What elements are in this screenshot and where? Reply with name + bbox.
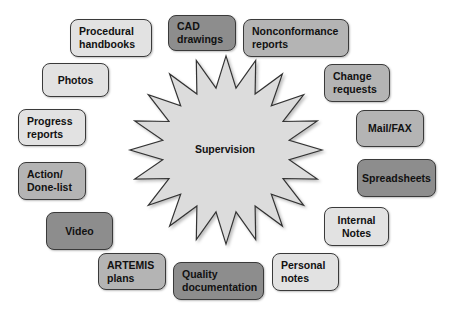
node-progress-reports: Progress reports	[18, 109, 86, 146]
node-artemis-plans: ARTEMIS plans	[98, 253, 166, 290]
node-label: Photos	[58, 74, 94, 87]
node-video: Video	[46, 212, 113, 250]
node-personal-notes: Personal notes	[272, 253, 339, 291]
node-spreadsheets: Spreadsheets	[357, 159, 436, 197]
node-label: Change requests	[333, 70, 377, 95]
node-label: Spreadsheets	[362, 172, 431, 185]
node-label: Internal Notes	[338, 214, 376, 239]
node-photos: Photos	[42, 63, 109, 97]
node-label: CAD drawings	[177, 20, 223, 45]
node-label: Procedural handbooks	[79, 25, 135, 50]
node-cad-drawings: CAD drawings	[168, 15, 236, 51]
node-label: Video	[65, 225, 93, 238]
node-quality-documentation: Quality documentation	[173, 262, 264, 300]
node-procedural-handbooks: Procedural handbooks	[70, 19, 152, 57]
node-action-done-list: Action/ Done-list	[18, 162, 86, 200]
node-internal-notes: Internal Notes	[324, 207, 389, 246]
node-label: Personal notes	[281, 259, 325, 284]
node-label: ARTEMIS plans	[107, 259, 154, 284]
node-label: Progress reports	[27, 115, 73, 140]
center-label: Supervision	[175, 143, 275, 155]
node-label: Action/ Done-list	[27, 168, 72, 193]
node-change-requests: Change requests	[324, 64, 390, 102]
node-label: Nonconformance reports	[252, 25, 338, 50]
node-label: Quality documentation	[182, 268, 257, 293]
node-mail-fax: Mail/FAX	[356, 110, 424, 147]
node-label: Mail/FAX	[368, 122, 412, 135]
node-nonconformance-reports: Nonconformance reports	[243, 19, 349, 57]
supervision-diagram: Supervision Procedural handbooks CAD dra…	[0, 0, 449, 314]
